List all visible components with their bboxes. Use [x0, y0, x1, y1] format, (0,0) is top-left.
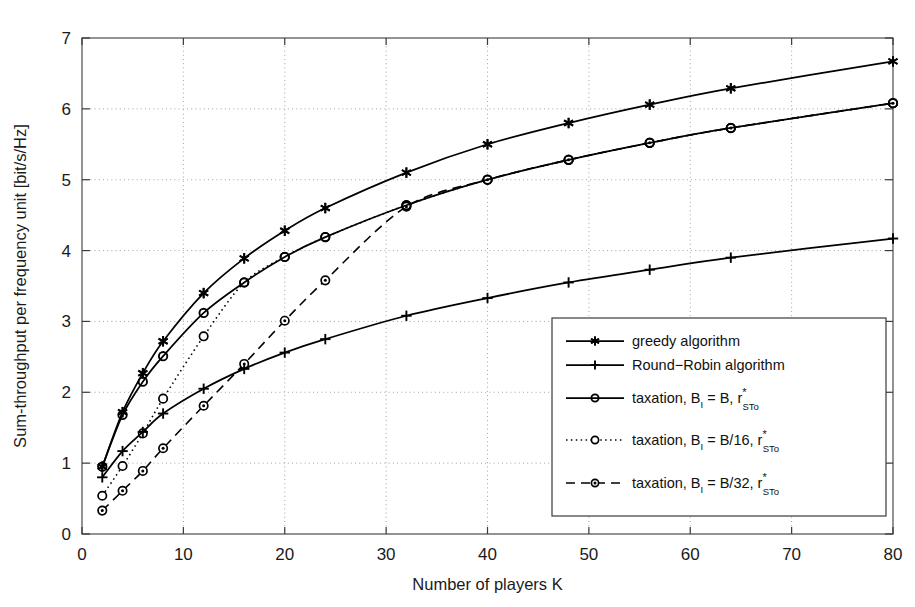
x-tick-label: 60 — [681, 545, 700, 564]
y-tick-label: 7 — [62, 29, 71, 48]
marker-circle-open — [98, 492, 106, 500]
marker-circle-dot — [199, 402, 207, 410]
x-tick-label: 0 — [77, 545, 86, 564]
marker-circle-dot — [281, 317, 289, 325]
marker-circle-dot — [321, 276, 329, 284]
x-tick-label: 40 — [478, 545, 497, 564]
line-chart: 0102030405060708001234567Number of playe… — [0, 0, 915, 607]
y-axis-title: Sum-throughput per frequency unit [bit/s… — [11, 124, 29, 448]
y-tick-label: 4 — [62, 242, 71, 261]
legend: greedy algorithmRound−Robin algorithmtax… — [552, 318, 886, 516]
x-tick-label: 20 — [275, 545, 294, 564]
marker-circle-dot — [139, 467, 147, 475]
marker-circle-dot — [98, 506, 106, 514]
marker-plus — [280, 347, 290, 357]
marker-circle-dot — [118, 487, 126, 495]
marker-plus — [482, 293, 492, 303]
marker-circle-open — [159, 394, 167, 402]
marker-circle-dot — [591, 479, 598, 486]
marker-asterisk — [240, 253, 249, 263]
marker-plus — [888, 233, 898, 243]
marker-plus — [401, 311, 411, 321]
y-tick-label: 3 — [62, 312, 71, 331]
marker-plus — [645, 265, 655, 275]
marker-plus — [563, 277, 573, 287]
x-tick-label: 30 — [377, 545, 396, 564]
legend-label: Round−Robin algorithm — [632, 357, 785, 373]
marker-circle-dot — [159, 444, 167, 452]
x-tick-label: 70 — [782, 545, 801, 564]
marker-asterisk — [483, 139, 492, 149]
x-axis-title: Number of players K — [412, 575, 562, 593]
x-tick-label: 10 — [174, 545, 193, 564]
marker-circle-open — [591, 436, 598, 443]
marker-asterisk — [402, 167, 411, 177]
marker-asterisk — [321, 203, 330, 213]
y-tick-label: 6 — [62, 100, 71, 119]
y-tick-label: 1 — [62, 454, 71, 473]
y-tick-label: 0 — [62, 525, 71, 544]
x-tick-label: 80 — [884, 545, 903, 564]
marker-asterisk — [280, 226, 289, 236]
marker-circle-open — [199, 332, 207, 340]
x-tick-label: 50 — [579, 545, 598, 564]
y-tick-label: 2 — [62, 383, 71, 402]
y-tick-label: 5 — [62, 171, 71, 190]
marker-plus — [726, 252, 736, 262]
chart-canvas: 0102030405060708001234567Number of playe… — [0, 0, 915, 607]
marker-plus — [320, 334, 330, 344]
marker-circle-open — [118, 462, 126, 470]
legend-label: greedy algorithm — [632, 333, 740, 349]
